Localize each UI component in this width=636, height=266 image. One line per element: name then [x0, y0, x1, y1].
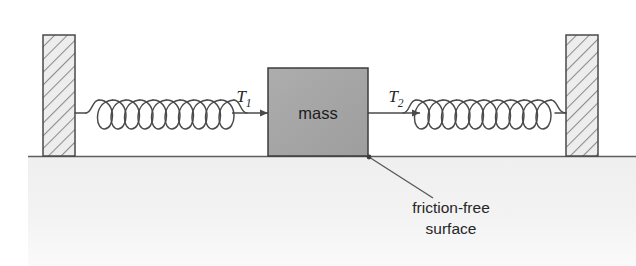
left-wall-body — [43, 35, 75, 156]
right-spring-lead-out — [551, 100, 566, 113]
right-spring — [403, 100, 566, 129]
caption-line-2: surface — [426, 220, 477, 237]
right-wall — [566, 35, 598, 156]
ground-fill — [28, 156, 636, 266]
left-spring — [75, 100, 247, 129]
right-wall-body — [566, 35, 598, 156]
tension-right-subscript: 2 — [398, 97, 404, 109]
left-spring-coils — [98, 100, 235, 129]
right-spring-lead-in — [403, 100, 416, 113]
mass-block: mass — [268, 68, 368, 156]
left-wall — [43, 35, 75, 156]
caption-leader-dot — [367, 155, 372, 160]
tension-left-label: T1 — [236, 87, 251, 109]
caption-line-1: friction-free — [412, 199, 490, 216]
tension-left-subscript: 1 — [246, 97, 252, 109]
mass-block-label: mass — [298, 104, 337, 122]
tension-right-label: T2 — [388, 87, 403, 109]
right-spring-coils — [415, 100, 552, 129]
left-spring-lead-in — [86, 100, 99, 113]
physics-diagram-figure: mass T1 T2 friction-free surface — [0, 0, 636, 266]
friction-free-surface — [28, 156, 636, 266]
diagram-canvas: mass T1 T2 friction-free surface — [0, 0, 636, 266]
